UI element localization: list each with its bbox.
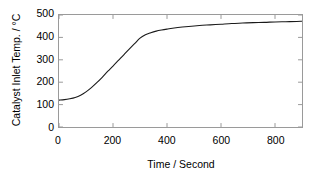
x-axis-title: Time / Second [58,158,304,171]
x-tick-label: 800 [246,134,306,146]
y-tick-label: 400 [2,31,54,42]
data-line-0 [59,21,302,100]
data-series-group [59,21,302,100]
plot-canvas [59,15,302,127]
tick-marks [59,15,302,127]
chart-figure: Catalyst Inlet Temp. / °C 01002003004005… [0,0,316,178]
y-tick-label-group: 0100200300400500 [0,0,54,178]
x-tick-label: 400 [137,134,197,146]
y-tick-label: 200 [2,76,54,87]
y-tick-label: 0 [2,122,54,133]
x-tick-label: 200 [82,134,142,146]
y-tick-label: 100 [2,99,54,110]
y-tick-label: 300 [2,54,54,65]
x-tick-label-group: 0200400600800 [0,134,316,150]
x-tick-label: 600 [191,134,251,146]
x-tick-label: 0 [28,134,88,146]
y-tick-label: 500 [2,8,54,19]
plot-area [58,14,303,128]
